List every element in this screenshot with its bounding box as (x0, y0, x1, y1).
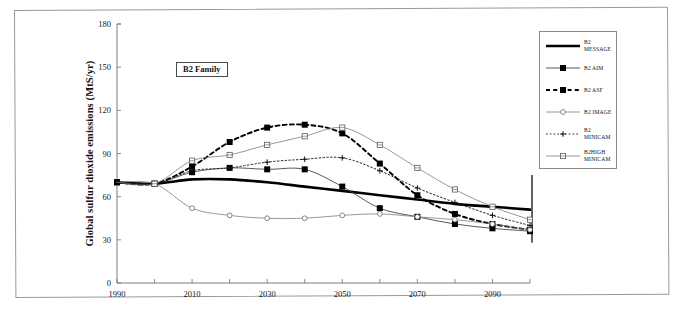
legend-label: B2 MINICAM (584, 127, 616, 141)
legend-swatch-thick-solid (544, 39, 582, 53)
chart-figure: Global sulfur dioxide emissions (MtS/yr)… (0, 0, 684, 317)
legend-item: B2HIGH MINICAM (540, 145, 616, 167)
legend-swatch-dashed (544, 83, 582, 97)
legend-swatch-thin-solid (544, 105, 582, 119)
legend: B2 MESSAGEB2 AIMB2 ASFB2 IMAGEB2 MINICAM… (539, 31, 617, 169)
annotation-b2-family: B2 Family (176, 62, 228, 77)
legend-item: B2 MINICAM (540, 123, 616, 145)
legend-swatch-solid (544, 61, 582, 75)
legend-item: B2 MESSAGE (540, 35, 616, 57)
series-b2-minicam (117, 155, 533, 228)
legend-label: B2 MESSAGE (584, 39, 616, 53)
legend-swatch-dotted (544, 127, 582, 141)
legend-label: B2 ASF (584, 87, 603, 94)
legend-item: B2 IMAGE (540, 101, 616, 123)
legend-label: B2HIGH MINICAM (584, 149, 611, 163)
legend-item: B2 AIM (540, 57, 616, 79)
legend-label: B2 AIM (584, 65, 603, 72)
series-b2-message (117, 179, 530, 210)
legend-item: B2 ASF (540, 79, 616, 101)
legend-swatch-thin-solid (544, 149, 582, 163)
legend-label: B2 IMAGE (584, 109, 611, 116)
